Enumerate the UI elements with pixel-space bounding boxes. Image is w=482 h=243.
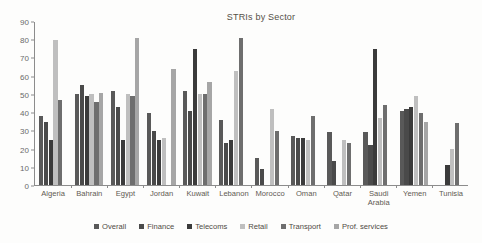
- bar: [198, 94, 202, 185]
- y-axis-tick-label: 30: [20, 127, 29, 136]
- bar-group: [107, 22, 143, 185]
- bar: [260, 169, 264, 185]
- bar: [234, 71, 238, 185]
- bar-group: [396, 22, 432, 185]
- x-axis-label: Kuwait: [180, 189, 216, 207]
- bar-group: [143, 22, 179, 185]
- bar: [419, 113, 423, 185]
- bar: [373, 49, 377, 185]
- bar: [152, 131, 156, 185]
- bar: [270, 109, 274, 185]
- bar: [116, 107, 120, 185]
- bar: [296, 138, 300, 185]
- bar-group: [215, 22, 251, 185]
- bar: [162, 138, 166, 185]
- y-axis-tick-label: 50: [20, 90, 29, 99]
- y-axis-tick-mark: [31, 113, 34, 114]
- legend-item[interactable]: Finance: [139, 222, 174, 231]
- legend-swatch-icon: [281, 224, 286, 229]
- bar: [94, 102, 98, 185]
- y-axis-tick-mark: [31, 94, 34, 95]
- x-axis-label: Bahrain: [71, 189, 107, 207]
- legend-swatch-icon: [240, 224, 245, 229]
- bar: [183, 91, 187, 185]
- bar: [404, 109, 408, 185]
- plot-area: 0102030405060708090: [34, 22, 468, 186]
- y-axis-tick-label: 80: [20, 36, 29, 45]
- legend-item[interactable]: Retail: [240, 222, 267, 231]
- bar-group: [251, 22, 287, 185]
- legend-label: Finance: [147, 222, 174, 231]
- bar: [203, 94, 207, 185]
- y-axis-tick-mark: [31, 40, 34, 41]
- legend-item[interactable]: Overall: [94, 222, 126, 231]
- bar: [39, 116, 43, 185]
- bar: [188, 111, 192, 185]
- bar-group: [179, 22, 215, 185]
- y-axis-tick-mark: [31, 149, 34, 150]
- bar: [409, 107, 413, 185]
- bar: [193, 49, 197, 185]
- bar: [291, 136, 295, 185]
- legend-label: Prof. services: [342, 222, 388, 231]
- bar: [368, 145, 372, 185]
- bar: [455, 123, 459, 185]
- bar-group: [324, 22, 360, 185]
- bar: [255, 158, 259, 185]
- legend-swatch-icon: [139, 224, 144, 229]
- bar: [445, 165, 449, 185]
- legend-label: Telecoms: [195, 222, 227, 231]
- x-axis-label: Jordan: [144, 189, 180, 207]
- chart-legend: OverallFinanceTelecomsRetailTransportPro…: [0, 222, 482, 231]
- bar: [147, 113, 151, 185]
- bar: [58, 100, 62, 185]
- bar: [332, 161, 336, 185]
- bar-group: [432, 22, 468, 185]
- legend-item[interactable]: Prof. services: [334, 222, 388, 231]
- x-axis-label: Tunisia: [433, 189, 469, 207]
- bar-group: [288, 22, 324, 185]
- bar: [275, 131, 279, 185]
- bar: [75, 94, 79, 185]
- legend-swatch-icon: [94, 224, 99, 229]
- bar: [126, 94, 130, 185]
- bar: [224, 143, 228, 185]
- bar: [229, 140, 233, 185]
- bar: [327, 132, 331, 185]
- y-axis-tick-label: 60: [20, 72, 29, 81]
- bar: [450, 149, 454, 185]
- y-axis-tick-label: 0: [25, 182, 29, 191]
- y-axis-tick-mark: [31, 131, 34, 132]
- x-axis-label: Saudi Arabia: [361, 189, 397, 207]
- legend-item[interactable]: Telecoms: [187, 222, 227, 231]
- legend-item[interactable]: Transport: [281, 222, 321, 231]
- bar: [207, 82, 211, 185]
- bar: [239, 38, 243, 185]
- legend-label: Transport: [289, 222, 321, 231]
- bar: [219, 120, 223, 185]
- bar: [363, 132, 367, 185]
- bar-group: [35, 22, 71, 185]
- bar: [89, 94, 93, 185]
- x-axis-label: Qatar: [324, 189, 360, 207]
- x-axis-label: Oman: [288, 189, 324, 207]
- bar: [49, 140, 53, 185]
- x-axis-label: Morocco: [252, 189, 288, 207]
- y-axis-tick-mark: [31, 58, 34, 59]
- legend-swatch-icon: [187, 224, 192, 229]
- bar: [414, 96, 418, 185]
- x-axis-label: Algeria: [35, 189, 71, 207]
- bar: [99, 93, 103, 185]
- y-axis-tick-label: 10: [20, 163, 29, 172]
- bar: [311, 116, 315, 185]
- bar: [301, 138, 305, 185]
- x-axis-labels: AlgeriaBahrainEgyptJordanKuwaitLebanonMo…: [35, 189, 469, 207]
- legend-label: Overall: [102, 222, 126, 231]
- y-axis-tick-mark: [31, 22, 34, 23]
- chart-title: STRIs by Sector: [0, 12, 482, 22]
- y-axis-tick-label: 90: [20, 18, 29, 27]
- y-axis-tick-mark: [31, 186, 34, 187]
- bar: [400, 111, 404, 185]
- bar: [85, 96, 89, 185]
- y-axis-tick-label: 40: [20, 109, 29, 118]
